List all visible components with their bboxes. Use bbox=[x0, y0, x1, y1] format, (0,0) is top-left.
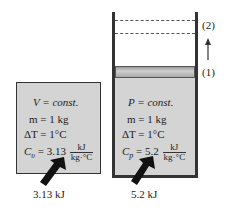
cv-unit: kJkg·°C bbox=[70, 143, 94, 162]
heat-input-label-right: 5.2 kJ bbox=[131, 188, 157, 200]
state-2-upper-line bbox=[115, 20, 195, 21]
cylinder-right-wall bbox=[195, 12, 198, 178]
volume-condition: V = const. bbox=[33, 96, 78, 108]
piston bbox=[115, 66, 195, 78]
temp-change-condition: ΔT = 1°C bbox=[24, 128, 67, 140]
pressure-condition: P = const. bbox=[128, 96, 173, 108]
up-arrow-icon bbox=[204, 38, 212, 60]
state-1-label: (1) bbox=[202, 66, 215, 78]
state-2-label: (2) bbox=[202, 19, 215, 31]
heat-arrow-icon bbox=[38, 156, 68, 188]
cp-unit: kJkg·°C bbox=[163, 143, 187, 162]
heat-input-label-left: 3.13 kJ bbox=[33, 188, 65, 200]
state-2-lower-line bbox=[115, 33, 195, 34]
cv-subscript: υ bbox=[31, 151, 35, 160]
mass-condition-right: m = 1 kg bbox=[127, 113, 167, 125]
mass-condition: m = 1 kg bbox=[29, 113, 69, 125]
unit-denominator: kg·°C bbox=[163, 153, 187, 162]
temp-change-condition-right: ΔT = 1°C bbox=[122, 128, 165, 140]
heat-arrow-icon bbox=[130, 156, 156, 186]
unit-denominator: kg·°C bbox=[70, 153, 94, 162]
